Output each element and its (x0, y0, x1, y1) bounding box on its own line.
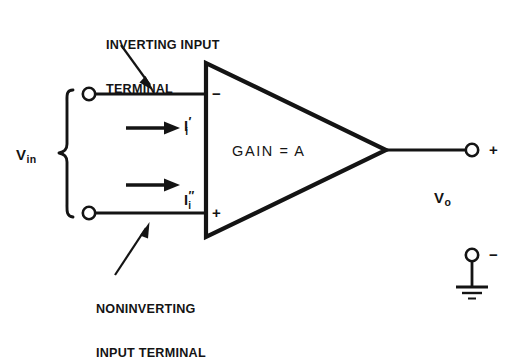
v-in-subscript: in (26, 153, 36, 165)
output-negative-terminal-circle (466, 249, 478, 261)
noninverting-input-terminal-circle (83, 207, 95, 219)
v-in-symbol: V (16, 146, 26, 163)
pointer-noninverting-icon (115, 222, 150, 275)
noninverting-input-label-line1: NONINVERTING (96, 302, 206, 317)
ground-icon (456, 287, 488, 299)
current-label-top: I′i (184, 118, 512, 135)
current-label-bottom: I″i (184, 192, 512, 209)
inverting-sign-label: − (212, 85, 221, 103)
v-in-label: Vin (16, 146, 37, 164)
inverting-input-label-line2: TERMINAL (106, 82, 220, 97)
output-negative-sign-label: − (489, 246, 498, 264)
inverting-input-label-line1: INVERTING INPUT (106, 38, 220, 53)
inverting-input-terminal-circle (83, 88, 95, 100)
noninverting-input-label: NONINVERTING INPUT TERMINAL (96, 272, 206, 361)
current-top-subscript: i (185, 126, 188, 137)
output-positive-terminal-circle (466, 144, 478, 156)
current-arrow-bottom-icon (126, 179, 180, 192)
current-bottom-subscript: i (188, 200, 191, 211)
output-positive-sign-label: + (489, 141, 498, 159)
noninverting-sign-label: + (212, 204, 221, 222)
noninverting-input-label-line2: INPUT TERMINAL (96, 346, 206, 361)
current-top-prime: ′ (188, 115, 191, 129)
input-bracket-brace (59, 90, 73, 217)
inverting-input-label: INVERTING INPUT TERMINAL (106, 8, 220, 127)
gain-label: GAIN = A (232, 143, 306, 160)
